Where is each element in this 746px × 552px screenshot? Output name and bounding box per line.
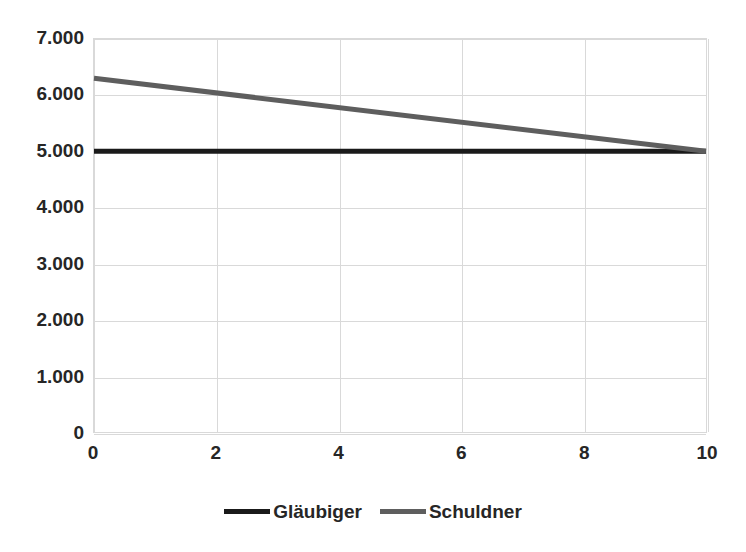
gridline-vertical — [708, 39, 709, 432]
legend-line-swatch-icon — [224, 509, 270, 514]
x-axis-tick-label: 6 — [431, 443, 491, 462]
plot-area — [93, 38, 707, 433]
legend-entry[interactable]: Gläubiger — [224, 502, 362, 521]
legend-label: Schuldner — [429, 502, 522, 521]
legend-label: Gläubiger — [273, 502, 362, 521]
y-axis-tick-label: 2.000 — [0, 310, 84, 329]
x-axis-tick-label: 4 — [309, 443, 369, 462]
y-axis-tick-label: 0 — [0, 423, 84, 442]
legend-entry[interactable]: Schuldner — [380, 502, 522, 521]
x-axis-tick-label: 2 — [186, 443, 246, 462]
y-axis-tick-label: 3.000 — [0, 254, 84, 273]
chart-legend: GläubigerSchuldner — [0, 502, 746, 521]
y-axis-tick-label: 5.000 — [0, 141, 84, 160]
gridline-horizontal — [94, 434, 706, 435]
legend-line-swatch-icon — [380, 509, 426, 514]
line-chart-figure: 7.0006.0005.0004.0003.0002.0001.0000 024… — [0, 0, 746, 552]
x-axis-tick-label: 0 — [63, 443, 123, 462]
x-axis-tick-label: 8 — [554, 443, 614, 462]
y-axis-tick-label: 6.000 — [0, 84, 84, 103]
y-axis-tick-label: 7.000 — [0, 28, 84, 47]
x-axis-tick-label: 10 — [677, 443, 737, 462]
y-axis-tick-label: 4.000 — [0, 197, 84, 216]
series-layer — [94, 39, 706, 432]
y-axis-tick-label: 1.000 — [0, 367, 84, 386]
series-line-schuldner — [94, 78, 706, 151]
